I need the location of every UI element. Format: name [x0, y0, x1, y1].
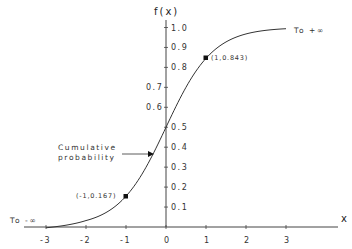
- y-tick-label: 0.1: [171, 203, 188, 212]
- upper-tail-label: To +∞: [293, 26, 325, 35]
- x-tick-label: 3: [284, 236, 291, 245]
- x-tick-label: 1: [204, 236, 211, 245]
- x-axis-label: x: [341, 213, 349, 224]
- y-tick-label: 0.9: [171, 43, 188, 52]
- y-tick-label: 1.0: [171, 24, 188, 33]
- y-tick-label: 0.5: [171, 123, 188, 132]
- lower-tail-label: To -∞: [9, 216, 37, 225]
- point-label-neg1: (-1,0.167): [76, 192, 116, 200]
- y-tick-label: 0.7: [146, 83, 163, 92]
- cdf-chart: x f(x) -3-2-10123 0.10.20.30.40.50.60.70…: [0, 0, 352, 249]
- y-ticks: 0.10.20.30.40.50.60.70.80.91.0: [146, 24, 188, 213]
- x-tick-label: -1: [120, 236, 131, 245]
- y-tick-label: 0.3: [171, 163, 188, 172]
- point-marker-pos1: [204, 56, 209, 61]
- x-tick-label: 0: [164, 236, 171, 245]
- y-axis-label: f(x): [154, 6, 179, 17]
- y-tick-label: 0.8: [171, 63, 188, 72]
- x-tick-label: 2: [244, 236, 251, 245]
- curve-label-line2: probability: [58, 153, 116, 162]
- point-label-pos1: (1,0.843): [211, 54, 248, 62]
- x-ticks: -3-2-10123: [40, 225, 291, 245]
- y-tick-label: 0.4: [171, 143, 188, 152]
- curve-label-line1: Cumulative: [58, 143, 117, 152]
- x-tick-label: -3: [40, 236, 51, 245]
- arrowhead-icon: [148, 151, 154, 157]
- y-tick-label: 0.6: [146, 103, 163, 112]
- y-tick-label: 0.2: [171, 183, 188, 192]
- point-marker-neg1: [124, 194, 129, 199]
- x-tick-label: -2: [80, 236, 91, 245]
